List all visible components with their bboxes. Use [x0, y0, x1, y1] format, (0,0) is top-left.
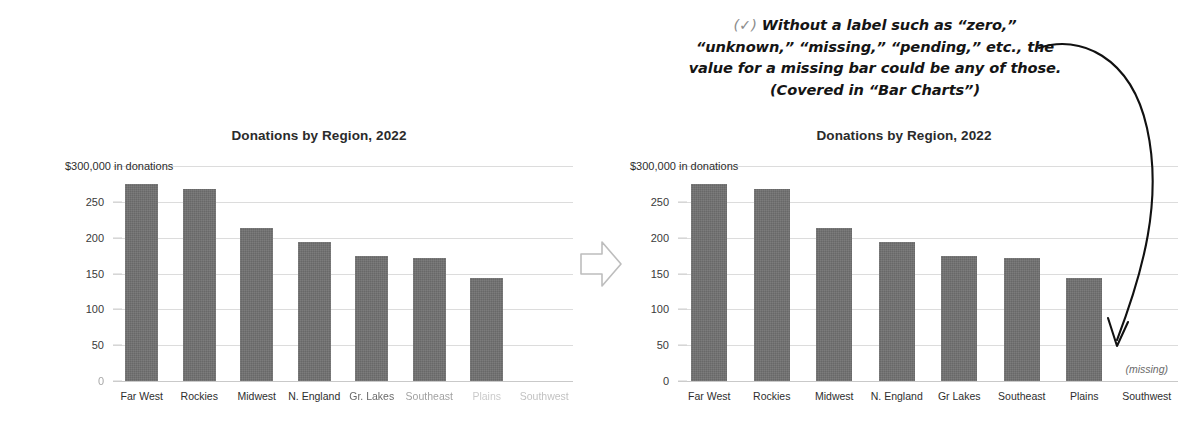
bar-gr-lakes: [355, 256, 388, 381]
y-axis-label-300: $300,000 in donations: [65, 160, 173, 172]
x-axis-label-southeast: Southeast: [406, 390, 453, 402]
bar-far-west: [125, 184, 158, 381]
y-tick-mark-0: [678, 381, 687, 382]
x-axis-label-plains: Plains: [1070, 390, 1099, 402]
annotation-line-4: (Covered in “Bar Charts”): [660, 79, 1090, 101]
bar-plains: [470, 278, 503, 381]
check-icon: (✓): [733, 16, 756, 33]
annotation-line-2: “unknown,” “missing,” “pending,” etc., t…: [660, 36, 1090, 58]
x-axis-label-rockies: Rockies: [753, 390, 790, 402]
bar-rockies: [754, 189, 790, 381]
y-axis-label-200: 200: [86, 232, 113, 244]
x-axis-label-gr-lakes: Gr. Lakes: [349, 390, 394, 402]
chart-after: Donations by Region, 2022 05010015020025…: [630, 128, 1178, 418]
x-axis-label-n-england: N. England: [288, 390, 340, 402]
y-axis-label-50: 50: [92, 339, 113, 351]
annotation-line-3: value for a missing bar could be any of …: [660, 57, 1090, 79]
x-axis-label-plains: Plains: [472, 390, 501, 402]
y-tick-mark-50: [113, 345, 122, 346]
y-axis-label-150: 150: [651, 268, 678, 280]
bar-gr-lakes: [941, 256, 977, 381]
y-axis-label-300: $300,000 in donations: [630, 160, 738, 172]
chart-before-title: Donations by Region, 2022: [65, 128, 573, 143]
bar-n-england: [879, 242, 915, 381]
y-axis-label-200: 200: [651, 232, 678, 244]
x-axis-label-n-england: N. England: [871, 390, 923, 402]
y-axis-label-0: 0: [98, 375, 113, 387]
y-axis-label-50: 50: [657, 339, 678, 351]
chart-after-title: Donations by Region, 2022: [630, 128, 1178, 143]
x-axis-label-southeast: Southeast: [998, 390, 1045, 402]
figure-canvas: Donations by Region, 2022 05010015020025…: [0, 0, 1202, 443]
y-axis-label-100: 100: [651, 303, 678, 315]
y-axis-label-100: 100: [86, 303, 113, 315]
y-axis-label-150: 150: [86, 268, 113, 280]
chart-before: Donations by Region, 2022 05010015020025…: [65, 128, 573, 418]
annotation-text-block: (✓) Without a label such as “zero,” “unk…: [660, 14, 1090, 100]
missing-value-note: (missing): [1125, 363, 1168, 375]
y-tick-mark-250: [113, 201, 122, 202]
y-axis-label-250: 250: [651, 196, 678, 208]
annotation-line-1-text: Without a label such as “zero,”: [762, 16, 1017, 33]
bar-midwest: [816, 228, 852, 381]
bar-n-england: [298, 242, 331, 381]
bar-southeast: [1004, 258, 1040, 381]
x-axis-label-midwest: Midwest: [237, 390, 276, 402]
gridline-0: [678, 381, 1178, 382]
y-tick-mark-200: [678, 237, 687, 238]
y-tick-mark-250: [678, 201, 687, 202]
y-tick-mark-200: [113, 237, 122, 238]
y-tick-mark-150: [113, 273, 122, 274]
gridline-0: [113, 381, 573, 382]
block-right-arrow-icon: [578, 238, 624, 290]
annotation-line-1: (✓) Without a label such as “zero,”: [660, 14, 1090, 36]
bar-midwest: [240, 228, 273, 381]
y-axis-label-250: 250: [86, 196, 113, 208]
y-tick-mark-0: [113, 381, 122, 382]
y-tick-mark-50: [678, 345, 687, 346]
y-tick-mark-150: [678, 273, 687, 274]
chart-before-plot-area: 050100150200250$300,000 in donationsFar …: [113, 166, 573, 381]
y-tick-mark-100: [678, 309, 687, 310]
gridline-300: [678, 166, 1178, 167]
x-axis-label-far-west: Far West: [121, 390, 163, 402]
chart-after-plot-area: 050100150200250$300,000 in donationsFar …: [678, 166, 1178, 381]
bar-rockies: [183, 189, 216, 381]
x-axis-label-far-west: Far West: [688, 390, 730, 402]
bar-southeast: [413, 258, 446, 381]
x-axis-label-midwest: Midwest: [815, 390, 854, 402]
bar-plains: [1066, 278, 1102, 381]
x-axis-label-gr-lakes: Gr Lakes: [938, 390, 981, 402]
bar-far-west: [691, 184, 727, 381]
x-axis-label-rockies: Rockies: [181, 390, 218, 402]
y-axis-label-0: 0: [663, 375, 678, 387]
x-axis-label-southwest: Southwest: [520, 390, 569, 402]
x-axis-label-southwest: Southwest: [1122, 390, 1171, 402]
y-tick-mark-100: [113, 309, 122, 310]
gridline-300: [113, 166, 573, 167]
